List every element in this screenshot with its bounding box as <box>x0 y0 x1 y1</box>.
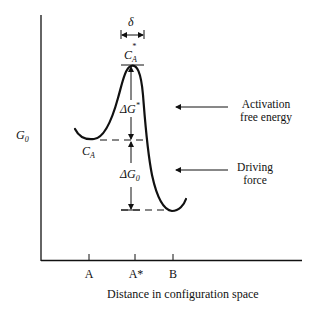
activated-state-base: C <box>124 48 132 62</box>
activation-annotation-line1: Activation <box>236 98 296 111</box>
driving-gap-sub: 0 <box>136 174 140 183</box>
driving-annotation-line2: force <box>233 174 277 187</box>
tick-label-b: B <box>163 268 183 280</box>
activation-gap-base: ΔG <box>120 102 136 116</box>
delta-label: δ <box>128 16 134 28</box>
driving-annotation: Driving force <box>233 161 277 187</box>
driving-annotation-line1: Driving <box>233 161 277 174</box>
tick-label-a-star: A* <box>124 268 148 280</box>
initial-state-sub: A <box>90 151 95 160</box>
activated-state-sup: * <box>132 43 136 51</box>
tick-label-b-text: B <box>169 267 177 281</box>
initial-state-base: C <box>82 144 90 158</box>
driving-gap-label: ΔG0 <box>120 168 140 183</box>
y-axis-label-base: G <box>16 128 25 142</box>
tick-label-a-text: A <box>85 267 94 281</box>
initial-state-label: CA <box>82 145 95 160</box>
energy-diagram-canvas <box>0 0 317 310</box>
driving-gap-base: ΔG <box>120 167 136 181</box>
activated-state-sub: A <box>132 55 137 64</box>
tick-label-a: A <box>79 268 99 280</box>
activation-gap-sup: * <box>136 101 140 110</box>
x-axis-label-text: Distance in configuration space <box>107 287 259 301</box>
activation-gap-label: ΔG* <box>120 102 140 115</box>
activation-annotation-line2: free energy <box>236 111 296 124</box>
x-axis-label: Distance in configuration space <box>107 288 259 300</box>
y-axis-label-sub: 0 <box>25 135 29 144</box>
tick-label-a-star-text: A* <box>129 267 144 281</box>
activated-state-label: C*A <box>124 49 137 64</box>
y-axis-label: G0 <box>16 129 29 144</box>
activation-annotation: Activation free energy <box>236 98 296 124</box>
delta-symbol: δ <box>128 15 134 29</box>
